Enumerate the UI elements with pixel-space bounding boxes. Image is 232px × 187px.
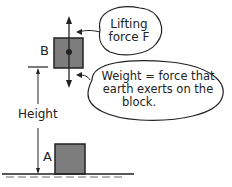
weight-pointer-arrow-icon <box>76 72 82 78</box>
center-of-mass-dot <box>66 49 72 55</box>
weight-arrowhead-icon <box>66 80 72 88</box>
height-label: Height <box>18 108 58 121</box>
lifting-force-pointer-arrow-icon <box>76 29 82 35</box>
weight-line-2: earth exerts on the <box>96 83 220 96</box>
height-down-arrow-icon <box>36 168 40 174</box>
block-a <box>55 144 85 174</box>
weight-line-3: block. <box>96 96 220 109</box>
lifting-force-line-2: force F <box>104 31 154 44</box>
block-a-label: A <box>43 150 52 163</box>
weight-text: Weight = force that earth exerts on the … <box>96 70 220 109</box>
lifting-force-text: Lifting force F <box>104 18 154 44</box>
height-up-arrow-icon <box>36 68 40 74</box>
block-b-label: B <box>40 44 49 57</box>
lifting-force-arrowhead-icon <box>66 16 72 24</box>
